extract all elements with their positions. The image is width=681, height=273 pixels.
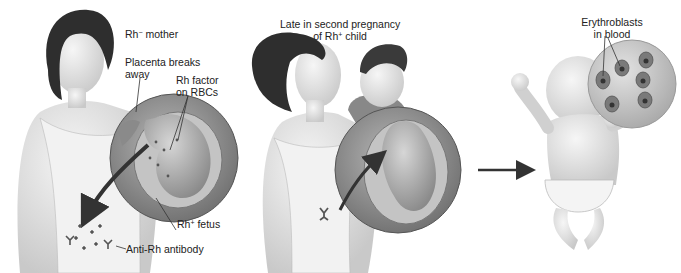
label-rh-positive-fetus: Rh+ fetus: [177, 218, 220, 230]
womb-cutaway-2: [335, 107, 461, 233]
blood-cell-inset: [588, 36, 676, 128]
label-second-pregnancy: Late in second pregnancy of Rh+ child: [280, 18, 400, 42]
label-anti-rh-antibody: Anti-Rh antibody: [126, 243, 204, 255]
label-erythroblasts-in-blood: Erythroblasts in blood: [572, 16, 652, 40]
label-rh-factor-on-rbcs: Rh factor on RBCs: [176, 74, 219, 98]
womb-cutaway-1: [110, 94, 238, 222]
label-rh-negative-mother: Rh− mother: [125, 28, 178, 40]
